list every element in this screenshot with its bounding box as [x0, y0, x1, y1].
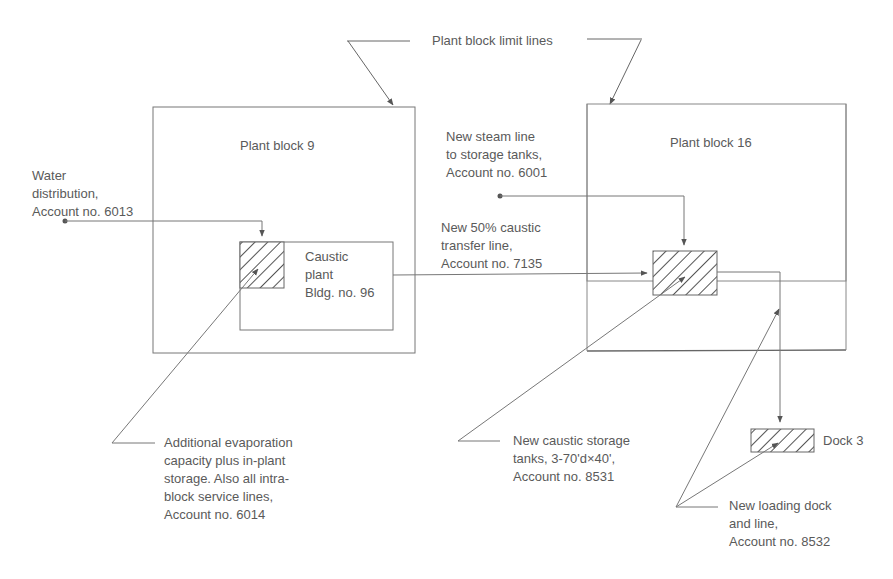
steam-annotation: New steam line to storage tanks, Account… [446, 128, 547, 182]
evaporation-leader [112, 269, 258, 443]
caustic-transfer-line [393, 273, 647, 275]
storage-annotation: New caustic storage tanks, 3-70'd×40', A… [513, 432, 630, 486]
transfer-annotation: New 50% caustic transfer line, Account n… [441, 219, 542, 273]
plant-block-16-label: Plant block 16 [670, 134, 752, 152]
dock-3-label: Dock 3 [823, 432, 863, 450]
plant-block-9-label: Plant block 9 [240, 137, 314, 155]
limit-lines-label: Plant block limit lines [432, 32, 553, 50]
plant-layout-diagram [0, 0, 893, 579]
caustic-plant-label: Caustic plant Bldg. no. 96 [305, 248, 374, 302]
caustic-plant-hatch [240, 242, 284, 288]
water-distribution-line [65, 221, 262, 236]
storage-tanks-hatch [653, 251, 717, 295]
storage-leader [458, 277, 685, 441]
water-annotation: Water distribution, Account no. 6013 [32, 167, 133, 221]
loading-line [717, 272, 780, 422]
dock-3-hatch [751, 429, 814, 452]
loading-dock-leader [676, 309, 779, 507]
loading-annotation: New loading dock and line, Account no. 8… [729, 497, 832, 551]
plant-block-16-bottom-edge [587, 350, 846, 351]
evaporation-annotation: Additional evaporation capacity plus in-… [164, 434, 293, 524]
